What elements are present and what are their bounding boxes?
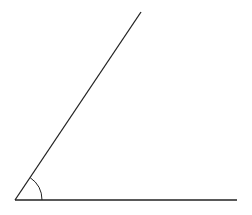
inclined-ray (15, 12, 141, 200)
angle-arc (30, 178, 42, 200)
angle-diagram (0, 0, 252, 215)
